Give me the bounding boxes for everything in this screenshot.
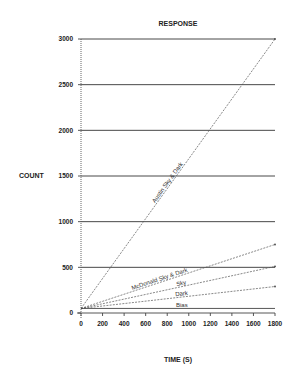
x-tick-label: 600 [140, 320, 151, 327]
y-tick-label: 0 [69, 309, 73, 316]
x-tick-label: 1200 [203, 320, 218, 327]
response-chart: RESPONSE 050010001500200025003000 020040… [0, 0, 300, 383]
x-axis-ticks: 020040060080010001200140016001800 [79, 313, 282, 327]
y-tick-label: 2500 [59, 81, 74, 88]
series-lines [81, 38, 276, 308]
y-axis-label: COUNT [19, 172, 45, 179]
y-tick-label: 3000 [59, 35, 74, 42]
y-axis-ticks: 050010001500200025003000 [59, 35, 81, 316]
series-line [81, 39, 275, 308]
y-tick-label: 2000 [59, 127, 74, 134]
x-tick-label: 1400 [225, 320, 240, 327]
series-label: Austin Sky & Dark [151, 160, 185, 204]
y-tick-label: 500 [62, 264, 73, 271]
series-label: McDonald Sky & Dark [131, 267, 190, 291]
x-tick-label: 1000 [182, 320, 197, 327]
y-tick-label: 1500 [59, 172, 74, 179]
x-tick-label: 0 [79, 320, 83, 327]
chart-title: RESPONSE [159, 20, 198, 27]
x-tick-label: 1600 [246, 320, 261, 327]
y-tick-label: 1000 [59, 218, 74, 225]
series-label: Bias [176, 302, 188, 308]
x-axis-label: TIME (S) [164, 356, 192, 364]
series-labels: Austin Sky & DarkMcDonald Sky & DarkSkyD… [131, 160, 190, 308]
gridlines [81, 39, 275, 267]
x-tick-label: 400 [119, 320, 130, 327]
x-tick-label: 800 [162, 320, 173, 327]
x-tick-label: 200 [97, 320, 108, 327]
series-line [81, 245, 275, 309]
x-tick-label: 1800 [268, 320, 283, 327]
